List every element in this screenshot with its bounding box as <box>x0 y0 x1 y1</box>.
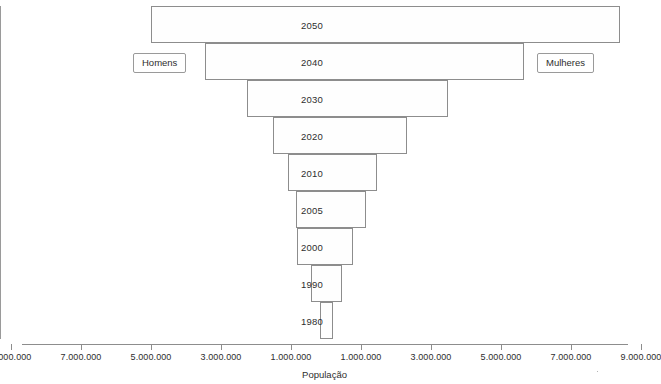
bar-mulheres <box>326 154 377 191</box>
axis-tick <box>151 344 152 350</box>
year-label: 2030 <box>301 93 323 104</box>
bar-homens <box>151 6 326 43</box>
axis-tick-label: 5.000.000 <box>481 352 522 362</box>
pyramid-row: 2020 <box>0 117 649 154</box>
axis-tick-label: 3.000.000 <box>201 352 242 362</box>
axis-tick <box>571 344 572 350</box>
year-label: 2020 <box>301 130 323 141</box>
axis-tick-label: 7.000.000 <box>551 352 592 362</box>
pyramid-row: 2005 <box>0 191 649 228</box>
year-label: 2005 <box>301 204 323 215</box>
legend-chip-homens: Homens <box>133 53 186 73</box>
axis-tick <box>641 344 642 350</box>
bar-mulheres <box>326 117 407 154</box>
pyramid-row: 2010 <box>0 154 649 191</box>
year-label: 1980 <box>301 315 323 326</box>
pyramid-row: 2050 <box>0 6 649 43</box>
axis-tick-label: 3.000.000 <box>411 352 452 362</box>
axis-tick-label: 7.000.000 <box>61 352 102 362</box>
axis-tick <box>291 344 292 350</box>
axis-tick-label: 9.000.000 <box>621 352 661 362</box>
year-label: 2000 <box>301 241 323 252</box>
bar-mulheres <box>326 228 353 265</box>
bar-mulheres <box>326 302 333 339</box>
pyramid-row: 1990 <box>0 265 649 302</box>
axis-tick-label: 1.000.000 <box>271 352 312 362</box>
axis-tick <box>431 344 432 350</box>
bar-mulheres <box>326 191 366 228</box>
axis-tick <box>81 344 82 350</box>
axis-tick <box>501 344 502 350</box>
year-label: 1990 <box>301 278 323 289</box>
pyramid-row: 1980 <box>0 302 649 339</box>
axis-tick-label: 5.000.000 <box>131 352 172 362</box>
axis-tick-label: 1.000.000 <box>341 352 382 362</box>
year-label: 2040 <box>301 56 323 67</box>
center-axis-line <box>0 6 1 339</box>
bar-mulheres <box>326 80 448 117</box>
axis-tick-label: 9.000.000 <box>0 352 31 362</box>
bar-mulheres <box>326 6 620 43</box>
axis-tick <box>361 344 362 350</box>
pyramid-row: 2000 <box>0 228 649 265</box>
bar-mulheres <box>326 265 342 302</box>
axis-tick <box>221 344 222 350</box>
chart-title <box>0 0 649 1</box>
bar-mulheres <box>326 43 524 80</box>
stray-mark <box>597 371 598 372</box>
pyramid-row: 2030 <box>0 80 649 117</box>
year-label: 2050 <box>301 19 323 30</box>
x-axis-line <box>22 344 628 345</box>
x-axis-title: População <box>0 369 649 380</box>
legend-chip-mulheres: Mulheres <box>537 53 594 73</box>
axis-tick <box>11 344 12 350</box>
year-label: 2010 <box>301 167 323 178</box>
